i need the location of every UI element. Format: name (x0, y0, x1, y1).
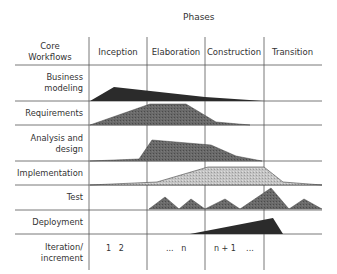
analysis-design-curve (90, 140, 262, 161)
test-curve (149, 188, 322, 209)
implementation-curve (90, 167, 322, 185)
requirements-curve (90, 104, 250, 125)
deployment-curve (190, 218, 283, 234)
business-modeling-curve (90, 87, 264, 101)
workflow-effort-chart (0, 0, 337, 274)
